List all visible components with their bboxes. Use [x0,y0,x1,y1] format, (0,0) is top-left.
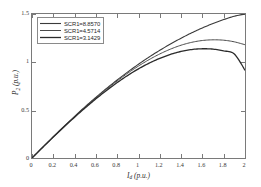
x-tick-label: 0 [29,162,32,168]
legend-line-swatch [40,34,61,41]
x-tick-label: 0.4 [70,162,78,168]
x-tick-label: 0.6 [91,162,99,168]
y-tick-label: 1.5 [21,10,29,16]
x-tick-label: 1 [136,162,139,168]
plot-area: SCR1=8.8570 SCR1=4.5714 SCR1=3.1429 [31,13,246,159]
legend-line-swatch [40,20,61,27]
x-axis-label-unit: (p.u.) [132,171,150,180]
y-tick-mark [241,158,245,159]
x-tick-label: 1.8 [219,162,227,168]
legend-item: SCR1=8.8570 [40,20,100,27]
y-axis-label-main: P [11,91,20,96]
x-tick-label: 1.2 [155,162,163,168]
data-series-line [32,49,245,158]
x-tick-label: 0.8 [112,162,120,168]
y-axis-label-sub: 2 [15,88,21,91]
legend-label: SCR1=8.8570 [64,21,100,27]
x-tick-label: 1.4 [176,162,184,168]
y-tick-mark [32,158,36,159]
y-tick-label: 0.5 [21,107,29,113]
x-tick-label: 1.6 [198,162,206,168]
x-tick-label: 0.2 [48,162,56,168]
y-tick-label: 1 [26,58,29,64]
x-axis-label: Id (p.u.) [31,171,246,180]
x-tick-label: 2 [242,162,245,168]
legend-item: SCR1=4.5714 [40,27,100,34]
legend-item: SCR1=3.1429 [40,34,100,41]
legend-label: SCR1=3.1429 [64,35,100,41]
chart-legend: SCR1=8.8570 SCR1=4.5714 SCR1=3.1429 [37,17,104,44]
legend-line-swatch [40,27,61,34]
y-axis-label-unit: (p.u.) [11,70,20,88]
figure-canvas: 1.5 1 0.5 0 P2 (p.u.) [0,0,261,187]
legend-label: SCR1=4.5714 [64,28,100,34]
data-series-line [32,40,245,158]
y-axis-label: P2 (p.u.) [11,55,20,111]
